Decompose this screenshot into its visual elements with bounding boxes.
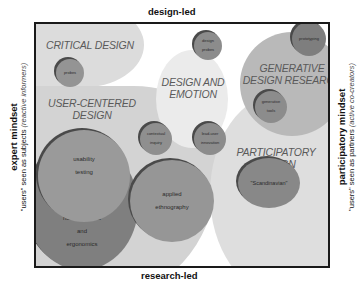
region-critical-design — [34, 22, 144, 88]
right-axis-title: participatory mindset — [336, 47, 347, 227]
method-applied-ethnography: appliedethnography — [130, 160, 214, 242]
axis-label-left: expert mindset "users" seen as subjects … — [8, 47, 28, 227]
left-axis-subtitle: "users" seen as subjects (reactive infor… — [19, 47, 28, 227]
contextual-inquiry-line1: contextual — [147, 132, 165, 136]
left-axis-subtitle-text: "users" seen as subjects — [19, 130, 28, 212]
method-probes: probes — [56, 59, 84, 87]
method-generative-tools: generativetools — [255, 91, 287, 123]
design-emotion-line2: EMOTION — [169, 88, 217, 100]
method-contextual-inquiry: contextualinquiry — [140, 123, 172, 155]
right-axis-subtitle: "users" seen as partners (active co-crea… — [347, 47, 356, 227]
usability-testing-label: usabilitytesting — [73, 156, 95, 176]
map-frame: CRITICAL DESIGN DESIGN AND EMOTION GENER… — [34, 22, 330, 268]
applied-line1: applied — [155, 191, 188, 198]
lead-user-line2: innovation — [201, 141, 219, 145]
design-research-landscape: design-led research-led expert mindset "… — [0, 0, 362, 293]
method-usability-testing: usabilitytesting — [38, 130, 130, 222]
contextual-inquiry-label: contextualinquiry — [147, 132, 165, 145]
usability-line1: usability — [73, 156, 95, 163]
generative-tools-label: generativetools — [262, 100, 281, 113]
ethnography-line2: ethnography — [155, 204, 188, 211]
lead-user-innovation-label: lead-userinnovation — [201, 132, 219, 145]
ucd-line1: USER-CENTERED — [48, 97, 136, 109]
design-emotion-line1: DESIGN AND — [162, 76, 225, 88]
method-design-probes: designprobes — [194, 32, 222, 60]
scandinavian-label: "Scandinavian" — [251, 180, 288, 186]
design-probes-line1: design — [202, 39, 214, 43]
contextual-inquiry-line2: inquiry — [147, 141, 165, 145]
axis-label-top: design-led — [148, 6, 196, 17]
region-label-generative-design-research: GENERATIVE DESIGN RESEARCH — [241, 62, 330, 86]
generative-tools-line1: generative — [262, 100, 281, 104]
design-probes-label: designprobes — [202, 39, 214, 52]
right-axis-subtitle-paren: (active co-creators) — [347, 63, 356, 127]
region-label-design-and-emotion: DESIGN AND EMOTION — [158, 76, 228, 100]
human-factors-line3: ergonomics — [63, 241, 101, 248]
right-axis-subtitle-text: "users" seen as partners — [347, 129, 356, 211]
prototyping-label: prototyping — [299, 37, 319, 41]
region-label-critical-design: CRITICAL DESIGN — [46, 39, 134, 51]
human-factors-line2: and — [63, 228, 101, 235]
pd-line1: PARTICIPATORY — [237, 146, 316, 158]
generative-line1: GENERATIVE — [260, 62, 325, 74]
method-prototyping: prototyping — [292, 22, 326, 56]
axis-label-bottom: research-led — [141, 270, 198, 281]
axis-label-right: participatory mindset "users" seen as pa… — [336, 47, 356, 227]
method-scandinavian: "Scandinavian" — [238, 158, 300, 208]
lead-user-line1: lead-user — [201, 132, 219, 136]
left-axis-title: expert mindset — [8, 47, 19, 227]
region-label-user-centered-design: USER-CENTERED DESIGN — [46, 97, 138, 121]
ucd-line2: DESIGN — [72, 109, 111, 121]
method-lead-user-innovation: lead-userinnovation — [194, 123, 226, 155]
applied-ethnography-label: appliedethnography — [155, 191, 188, 211]
usability-line2: testing — [73, 169, 95, 176]
probes-label: probes — [64, 71, 76, 75]
left-axis-subtitle-paren: (reactive informers) — [19, 63, 28, 128]
design-probes-line2: probes — [202, 48, 214, 52]
generative-tools-line2: tools — [262, 109, 281, 113]
generative-line2: DESIGN RESEARCH — [243, 74, 330, 86]
